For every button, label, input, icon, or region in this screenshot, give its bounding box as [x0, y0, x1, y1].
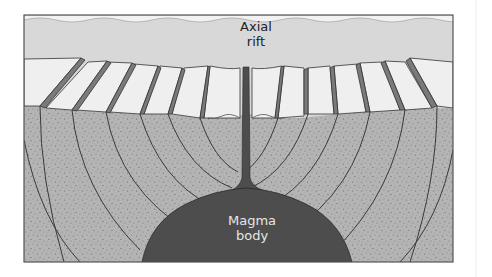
fault-blocks-right — [252, 58, 453, 118]
fault-blocks-left — [24, 58, 240, 118]
ridge-diagram — [0, 0, 492, 277]
